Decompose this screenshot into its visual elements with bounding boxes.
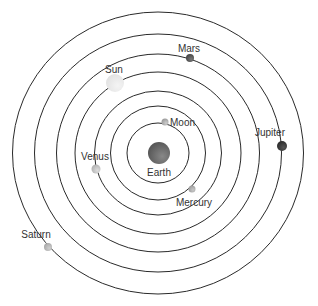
- moon-label: Moon: [170, 117, 195, 128]
- jupiter-icon: [277, 141, 287, 151]
- mercury-icon: [189, 186, 196, 193]
- earth-icon: [148, 142, 170, 164]
- geocentric-diagram: EarthMoonMercuryVenusSunMarsJupiterSatur…: [0, 0, 318, 306]
- venus-icon: [92, 165, 101, 174]
- saturn-icon: [44, 243, 52, 251]
- earth-label: Earth: [147, 167, 171, 178]
- moon-icon: [162, 119, 169, 126]
- mercury-label: Mercury: [176, 197, 212, 208]
- sun-label: Sun: [105, 64, 123, 75]
- venus-label: Venus: [81, 151, 109, 162]
- mars-label: Mars: [178, 43, 200, 54]
- saturn-label: Saturn: [21, 229, 50, 240]
- jupiter-label: Jupiter: [255, 127, 286, 138]
- mars-icon: [186, 54, 194, 62]
- sun-icon: [106, 74, 124, 92]
